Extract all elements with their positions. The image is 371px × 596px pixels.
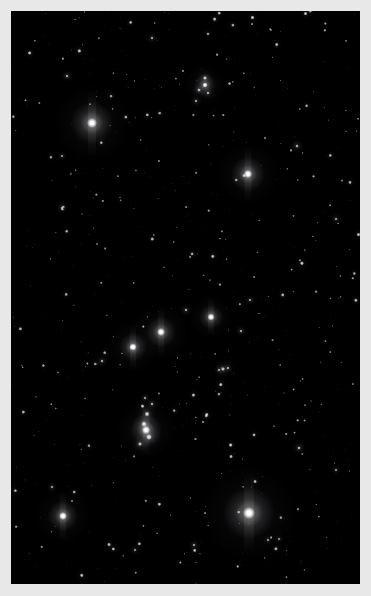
frame-edge-left bbox=[0, 0, 11, 596]
night-sky-plate bbox=[11, 11, 360, 584]
star-field-canvas bbox=[11, 11, 360, 584]
frame-edge-bottom bbox=[0, 584, 371, 596]
frame-edge-right bbox=[360, 0, 371, 596]
astrophoto-frame bbox=[0, 0, 371, 596]
frame-edge-top bbox=[0, 0, 371, 11]
